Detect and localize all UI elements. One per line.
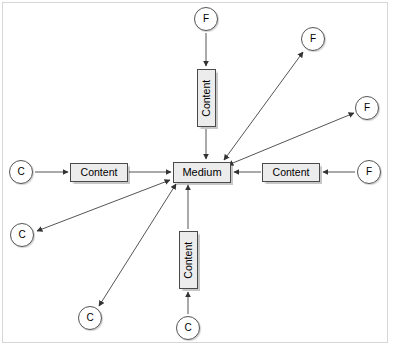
content-box-left[interactable]: Content (70, 163, 128, 182)
edge-medium-f-upper-right (224, 52, 303, 160)
medium-hub-node[interactable]: Medium (173, 162, 231, 183)
circle-node-f-upper-right[interactable]: F (301, 27, 325, 51)
edge-medium-c-lower-left (37, 180, 170, 231)
circle-node-f-top[interactable]: F (194, 7, 218, 31)
content-box-label: Content (81, 167, 118, 178)
content-box-label: Content (273, 167, 310, 178)
content-box-label: Content (201, 80, 212, 117)
circle-node-c-lower-left[interactable]: C (10, 223, 34, 247)
circle-node-f-far-right[interactable]: F (355, 96, 379, 120)
circle-node-f-right[interactable]: F (357, 160, 381, 184)
circle-node-c-left[interactable]: C (9, 160, 33, 184)
circle-node-c-bottom[interactable]: C (176, 316, 200, 340)
circle-label: F (310, 34, 316, 44)
circle-label: F (364, 103, 370, 113)
content-box-label: Content (183, 242, 194, 279)
content-box-top[interactable]: Content (197, 69, 216, 127)
circle-node-c-bottom-left[interactable]: C (78, 306, 102, 330)
medium-hub-label: Medium (182, 167, 221, 178)
circle-label: C (17, 167, 24, 177)
content-box-bottom[interactable]: Content (179, 231, 198, 289)
content-box-right[interactable]: Content (262, 163, 320, 182)
circle-label: F (203, 14, 209, 24)
edge-medium-f-far-right (228, 113, 354, 165)
diagram-canvas: Medium C Content F Content F Content C C… (0, 0, 393, 347)
circle-label: C (18, 230, 25, 240)
circle-label: C (86, 313, 93, 323)
circle-label: C (184, 323, 191, 333)
circle-label: F (366, 167, 372, 177)
